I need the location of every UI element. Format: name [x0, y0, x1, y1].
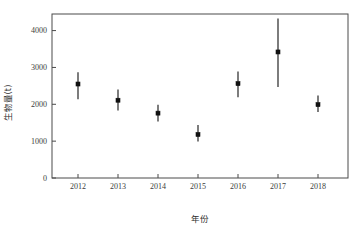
x-tick-label: 2018	[310, 182, 326, 191]
chart-canvas: 01000200030004000 2012201320142015201620…	[0, 0, 360, 227]
data-point-marker	[196, 133, 200, 137]
data-point-marker	[276, 50, 280, 54]
y-tick-label: 1000	[31, 137, 47, 146]
x-tick-label: 2014	[150, 182, 166, 191]
x-tick-label: 2017	[270, 182, 286, 191]
data-point-marker	[76, 82, 80, 86]
y-tick-label: 0	[43, 174, 47, 183]
data-point-marker	[156, 111, 160, 115]
chart-background	[0, 0, 360, 227]
x-axis-title: 年份	[191, 214, 209, 224]
y-tick-label: 2000	[31, 100, 47, 109]
data-point-marker	[316, 103, 320, 107]
data-point-marker	[116, 98, 120, 102]
x-tick-label: 2013	[110, 182, 126, 191]
y-tick-label: 4000	[31, 26, 47, 35]
x-tick-label: 2012	[70, 182, 86, 191]
y-tick-label: 3000	[31, 63, 47, 72]
y-axis-title: 生物量(t)	[3, 85, 13, 122]
data-point-marker	[236, 82, 240, 86]
x-tick-label: 2016	[230, 182, 246, 191]
x-tick-label: 2015	[190, 182, 206, 191]
biomass-by-year-chart: 01000200030004000 2012201320142015201620…	[0, 0, 360, 227]
